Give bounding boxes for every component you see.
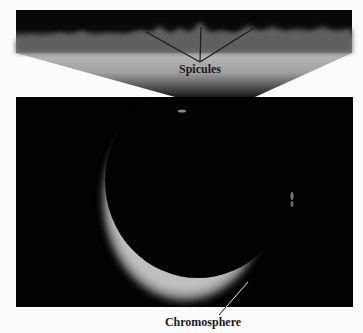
spicules-label: Spicules bbox=[179, 62, 221, 77]
eclipse-figure bbox=[0, 0, 363, 333]
prominence bbox=[291, 192, 294, 200]
chromosphere-pointer-tail bbox=[219, 307, 226, 315]
eclipse-image bbox=[16, 84, 353, 308]
prominence bbox=[178, 110, 186, 113]
spicules-closeup bbox=[16, 10, 352, 53]
prominence bbox=[291, 201, 294, 207]
chromosphere-label: Chromosphere bbox=[165, 315, 241, 330]
